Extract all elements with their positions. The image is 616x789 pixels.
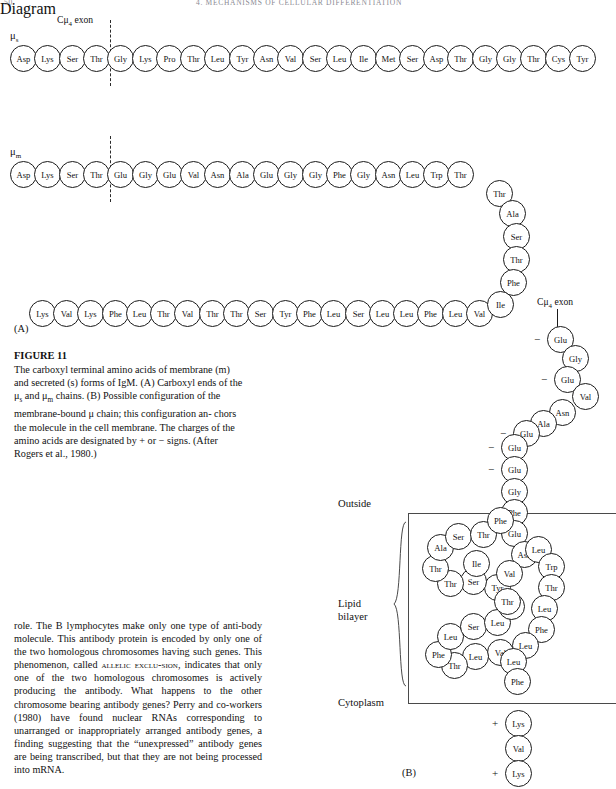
residue-mum-16: Leu (399, 161, 426, 188)
residue-bh-7: Thr (199, 300, 226, 327)
outside-label: Outside (338, 498, 371, 509)
residue-mum-11: Gly (277, 161, 304, 188)
running-head-center: 4. MECHANISMS OF CELLULAR DIFFERENTIATIO… (196, 0, 402, 7)
residue-mus-4: Gly (107, 45, 134, 72)
residue-mus-18: Thr (447, 45, 474, 72)
residue-bh-11: Phe (296, 300, 323, 327)
residue-mus-20: Gly (496, 45, 523, 72)
residue-mus-0: Asp (10, 45, 37, 72)
residue-bh-15: Leu (393, 300, 420, 327)
residue-bh-16: Phe (417, 300, 444, 327)
residue-btm-23: Val (496, 560, 523, 587)
body-small-caps-1: allelic exclu- (101, 659, 161, 670)
residue-mus-11: Val (277, 45, 304, 72)
residue-bh-13: Ser (345, 300, 372, 327)
residue-mum-1: Lys (34, 161, 61, 188)
residue-mus-10: Asn (253, 45, 280, 72)
residue-brd-3: Val (572, 383, 599, 410)
residue-mum-17: Trp (423, 161, 450, 188)
residue-mum-14: Gly (350, 161, 377, 188)
caption-line-3-post: chains. (B) Possible configuration of (53, 390, 205, 401)
residue-mus-12: Ser (302, 45, 329, 72)
residue-mum-3: Thr (83, 161, 110, 188)
residue-mum-2: Ser (59, 161, 86, 188)
charge-brd-0: − (534, 334, 540, 345)
figure-number: FIGURE 11 (14, 349, 246, 362)
residue-bh-4: Leu (126, 300, 153, 327)
membrane-left-edge (408, 513, 409, 703)
residue-mum-8: Asn (204, 161, 231, 188)
residue-mus-14: Ile (350, 45, 377, 72)
residue-btm-24: Thr (494, 588, 521, 615)
charge-bcyt-0: + (492, 718, 498, 729)
residue-bh-10: Tyr (272, 300, 299, 327)
residue-mus-8: Leu (204, 45, 231, 72)
residue-bh-17: Leu (442, 300, 469, 327)
caption-line-1: The carboxyl terminal amino acids of mem… (14, 364, 230, 375)
residue-mus-16: Ser (399, 45, 426, 72)
residue-mum-5: Gly (132, 161, 159, 188)
residue-bcyt-1: Val (505, 735, 532, 762)
charge-brd-7: − (488, 442, 494, 453)
membrane-inner-line (408, 703, 616, 704)
residue-bh-3: Phe (102, 300, 129, 327)
exon-label-right: Cμ4 exon (537, 296, 573, 310)
residue-bh-6: Val (174, 300, 201, 327)
mu-m-label: μm (10, 146, 21, 160)
charge-bcyt-2: + (492, 768, 498, 779)
residue-bh-14: Leu (369, 300, 396, 327)
residue-bdiag-5: Ile (487, 291, 514, 318)
caption-mu-m: μm (42, 390, 53, 401)
residue-mus-21: Thr (520, 45, 547, 72)
residue-mus-9: Tyr (229, 45, 256, 72)
residue-mus-2: Ser (59, 45, 86, 72)
bilayer-bracket-icon (392, 520, 408, 690)
residue-bh-12: Leu (320, 300, 347, 327)
residue-bh-5: Thr (150, 300, 177, 327)
caption-line-2: and secreted (s) forms of IgM. (A) Carbo… (14, 377, 227, 388)
residue-mus-23: Tyr (569, 45, 596, 72)
panel-b-label: (B) (402, 767, 416, 778)
cytoplasm-label: Cytoplasm (338, 697, 384, 708)
residue-bh-0: Lys (29, 300, 56, 327)
residue-mum-4: Glu (107, 161, 134, 188)
caption-line-3-pre: the (230, 377, 242, 388)
residue-mum-13: Phe (326, 161, 353, 188)
running-head-left: 50 (4, 0, 13, 7)
residue-btm-26: Phe (504, 668, 531, 695)
residue-mus-3: Thr (83, 45, 110, 72)
residue-bh-9: Ser (247, 300, 274, 327)
residue-mum-0: Asp (10, 161, 37, 188)
figure-page: 50 4. MECHANISMS OF CELLULAR DIFFERENTIA… (0, 0, 616, 789)
residue-mus-1: Lys (34, 45, 61, 72)
charge-brd-8: − (488, 464, 494, 475)
charge-brd-2: − (541, 374, 547, 385)
residue-mum-12: Gly (302, 161, 329, 188)
residue-mus-22: Cys (545, 45, 572, 72)
residue-mum-6: Glu (156, 161, 183, 188)
residue-btm-21: Phe (487, 507, 514, 534)
body-part-2: , indicates that only one of the two hom… (14, 659, 262, 775)
residue-mus-17: Asp (423, 45, 450, 72)
residue-btm-11: Ser (460, 613, 487, 640)
figure-caption: FIGURE 11 The carboxyl terminal amino ac… (14, 349, 246, 460)
residue-mus-6: Pro (156, 45, 183, 72)
mu-s-label: μs (10, 30, 18, 44)
residue-mus-15: Met (375, 45, 402, 72)
residue-mum-18: Thr (447, 161, 474, 188)
body-paragraph: role. The B lymphocytes make only one ty… (14, 619, 262, 776)
residue-btm-19: Ser (445, 523, 472, 550)
residue-bh-8: Thr (223, 300, 250, 327)
residue-bh-2: Lys (77, 300, 104, 327)
residue-mus-7: Thr (180, 45, 207, 72)
residue-mum-9: Ala (229, 161, 256, 188)
lipid-bilayer-label-1: Lipid (338, 598, 361, 609)
residue-mus-5: Lys (132, 45, 159, 72)
residue-bcyt-2: Lys (505, 760, 532, 787)
caption-line-3-mid: and (22, 390, 42, 401)
panel-a-label: (A) (14, 323, 28, 334)
residue-mum-15: Asn (375, 161, 402, 188)
residue-mum-7: Val (180, 161, 207, 188)
residue-mum-10: Glu (253, 161, 280, 188)
residue-bh-1: Val (53, 300, 80, 327)
